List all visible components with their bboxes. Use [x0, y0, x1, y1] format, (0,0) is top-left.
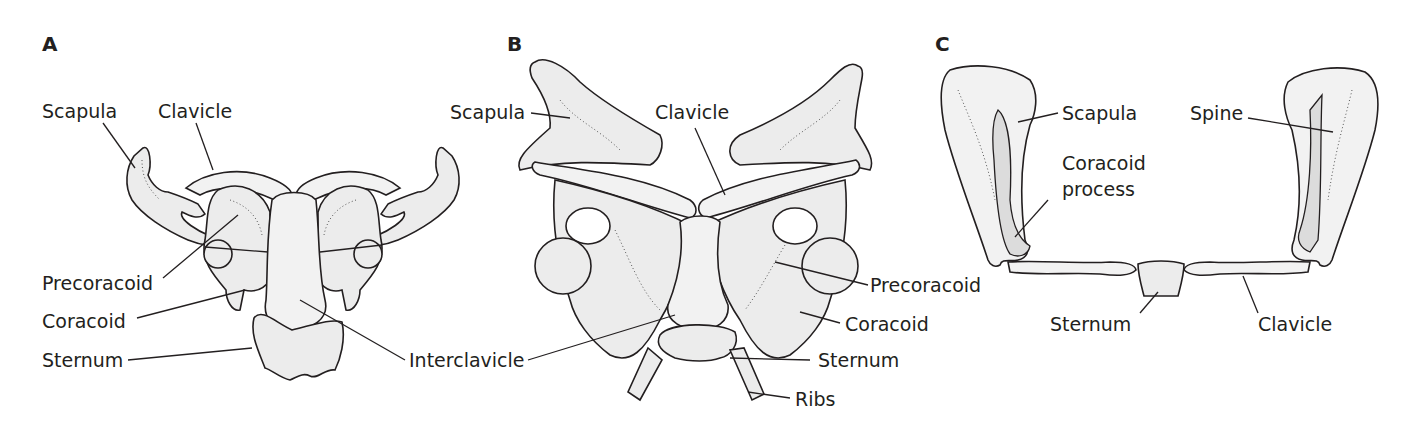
panel-a-label-sternum: Sternum — [42, 349, 123, 371]
panel-a-letter: A — [42, 32, 57, 56]
panel-b-label-sternum: Sternum — [818, 349, 899, 371]
panel-c-letter: C — [935, 32, 950, 56]
panel-c-label-coracoid-process-line1: Coracoid — [1062, 152, 1146, 174]
panel-c-label-scapula: Scapula — [1062, 102, 1137, 124]
panel-a-label-precoracoid: Precoracoid — [42, 272, 153, 294]
panel-a-left-glenoid — [204, 240, 232, 268]
panel-a-label-coracoid: Coracoid — [42, 310, 126, 332]
panel-c-label-spine: Spine — [1190, 102, 1243, 124]
panel-b-label-ribs: Ribs — [795, 388, 835, 410]
pectoral-girdle-illustration — [0, 0, 1416, 430]
panel-b-left-glenoid — [535, 238, 591, 294]
panel-b-label-coracoid: Coracoid — [845, 313, 929, 335]
panel-b-right-foramen — [773, 208, 817, 244]
panel-c-left-scapula — [941, 66, 1036, 266]
panel-c-sternum — [1138, 261, 1184, 296]
panel-c-label-sternum: Sternum — [1050, 313, 1131, 335]
panel-c-drawing — [941, 66, 1378, 296]
panel-b-label-clavicle: Clavicle — [655, 101, 729, 123]
panel-b-left-scapula — [519, 60, 662, 170]
panel-a-label-clavicle: Clavicle — [158, 100, 232, 122]
panel-b-sternum — [658, 325, 736, 361]
panel-b-right-glenoid — [802, 238, 858, 294]
panel-b-label-scapula: Scapula — [450, 101, 525, 123]
panel-c-label-coracoid-process-line2: process — [1062, 178, 1135, 200]
panel-b-label-precoracoid: Precoracoid — [870, 274, 981, 296]
panel-b-right-scapula — [730, 64, 872, 170]
panel-a-drawing — [127, 147, 459, 380]
panel-a-label-interclavicle: Interclavicle — [409, 349, 524, 371]
panel-a-right-glenoid — [354, 240, 382, 268]
panel-c-label-clavicle: Clavicle — [1258, 313, 1332, 335]
panel-b-letter: B — [507, 32, 522, 56]
panel-c-left-clavicle — [1008, 261, 1136, 275]
panel-c-right-clavicle — [1184, 261, 1310, 275]
panel-b-left-foramen — [566, 208, 610, 244]
panel-a-label-scapula: Scapula — [42, 100, 117, 122]
panel-b-right-rib — [730, 348, 764, 400]
